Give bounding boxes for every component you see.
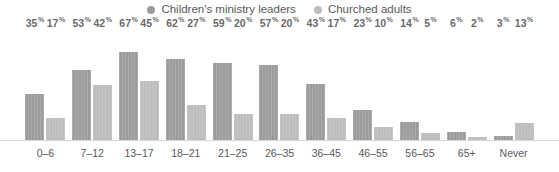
x-axis-tick-label: 26–35 — [256, 147, 303, 160]
x-axis-tick-label: Never — [490, 147, 537, 160]
bar-column: 23% — [353, 30, 372, 140]
bar-group: 53%42% — [69, 30, 116, 140]
bar: 57% — [259, 65, 278, 140]
bar-value-label: 13% — [515, 16, 533, 28]
x-axis-tick-label: 56–65 — [397, 147, 444, 160]
bar-column: 17% — [327, 30, 346, 140]
bar: 35% — [25, 94, 44, 140]
legend-label-leaders: Children's ministry leaders — [161, 4, 296, 16]
bar-value-label: 6% — [450, 16, 463, 28]
bar-column: 17% — [46, 30, 65, 140]
bar-value-label: 20% — [234, 16, 252, 28]
bar-value-label: 45% — [140, 16, 158, 28]
bar: 27% — [187, 105, 206, 140]
bar-group: 43%17% — [303, 30, 350, 140]
bar-value-label: 59% — [213, 16, 231, 28]
bar-column: 27% — [187, 30, 206, 140]
bar-group: 62%27% — [162, 30, 209, 140]
bar: 53% — [72, 70, 91, 140]
bar: 6% — [447, 132, 466, 140]
bar-column: 13% — [515, 30, 534, 140]
bar-column: 6% — [447, 30, 466, 140]
bar-group: 35%17% — [22, 30, 69, 140]
bar-column: 10% — [374, 30, 393, 140]
bar-group: 23%10% — [350, 30, 397, 140]
bar-group: 6%2% — [443, 30, 490, 140]
bar-value-label: 43% — [307, 16, 325, 28]
bar: 42% — [93, 85, 112, 140]
bar-value-label: 3% — [497, 16, 510, 28]
bar-column: 20% — [280, 30, 299, 140]
bar-column: 20% — [234, 30, 253, 140]
bar-value-label: 2% — [471, 16, 484, 28]
x-axis-tick-label: 0–6 — [22, 147, 69, 160]
legend-item-adults: Churched adults — [314, 4, 412, 16]
bar-column: 45% — [140, 30, 159, 140]
bar-value-label: 10% — [374, 16, 392, 28]
bar: 45% — [140, 81, 159, 140]
bar-column: 2% — [468, 30, 487, 140]
x-axis-tick-label: 36–45 — [303, 147, 350, 160]
x-axis-line — [0, 140, 559, 141]
bar-value-label: 67% — [119, 16, 137, 28]
bar-column: 43% — [306, 30, 325, 140]
bar-value-label: 53% — [73, 16, 91, 28]
x-axis-tick-label: 18–21 — [162, 147, 209, 160]
bar-column: 59% — [213, 30, 232, 140]
bar-group: 14%5% — [397, 30, 444, 140]
bar-value-label: 14% — [400, 16, 418, 28]
bar-group: 57%20% — [256, 30, 303, 140]
bar-value-label: 42% — [94, 16, 112, 28]
bar: 20% — [280, 114, 299, 140]
legend-item-leaders: Children's ministry leaders — [147, 4, 296, 16]
bar: 10% — [374, 127, 393, 140]
bar-value-label: 57% — [260, 16, 278, 28]
bar-value-label: 17% — [47, 16, 65, 28]
x-axis-tick-label: 7–12 — [69, 147, 116, 160]
legend-label-adults: Churched adults — [328, 4, 412, 16]
grouped-bar-chart: Children's ministry leaders Churched adu… — [0, 0, 559, 172]
bar-value-label: 20% — [281, 16, 299, 28]
legend-dot-icon — [147, 6, 155, 14]
bar-column: 35% — [25, 30, 44, 140]
x-axis-tick-label: 21–25 — [209, 147, 256, 160]
bar: 62% — [166, 59, 185, 140]
bar-group: 59%20% — [209, 30, 256, 140]
x-axis-labels: 0–67–1213–1718–2121–2526–3536–4546–5556–… — [22, 147, 537, 167]
bar-value-label: 35% — [26, 16, 44, 28]
bar-value-label: 62% — [166, 16, 184, 28]
bar-group: 3%13% — [490, 30, 537, 140]
bar-value-label: 27% — [187, 16, 205, 28]
bar-group: 67%45% — [116, 30, 163, 140]
bar: 23% — [353, 110, 372, 140]
bar-column: 14% — [400, 30, 419, 140]
bar-column: 42% — [93, 30, 112, 140]
x-axis-tick-label: 13–17 — [116, 147, 163, 160]
bar: 67% — [119, 52, 138, 140]
bar: 20% — [234, 114, 253, 140]
bar-value-label: 23% — [353, 16, 371, 28]
bar-column: 53% — [72, 30, 91, 140]
bar-value-label: 5% — [424, 16, 437, 28]
bar-column: 67% — [119, 30, 138, 140]
chart-legend: Children's ministry leaders Churched adu… — [0, 4, 559, 16]
bar-column: 5% — [421, 30, 440, 140]
plot-area: 35%17%53%42%67%45%62%27%59%20%57%20%43%1… — [22, 30, 537, 140]
bar-column: 62% — [166, 30, 185, 140]
bar-column: 3% — [494, 30, 513, 140]
bar: 13% — [515, 123, 534, 140]
x-axis-tick-label: 46–55 — [350, 147, 397, 160]
legend-dot-icon — [314, 6, 322, 14]
x-axis-tick-label: 65+ — [443, 147, 490, 160]
bar: 43% — [306, 84, 325, 140]
bar-column: 57% — [259, 30, 278, 140]
bar: 59% — [213, 63, 232, 140]
bar: 17% — [327, 118, 346, 140]
bar: 14% — [400, 122, 419, 140]
bar-value-label: 17% — [328, 16, 346, 28]
bar: 17% — [46, 118, 65, 140]
